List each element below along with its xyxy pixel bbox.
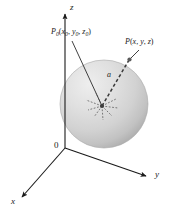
center-point-paren-close: ) <box>88 27 91 36</box>
sphere-coordinate-figure: z y x 0 P0(x0, y0, z0) P(x, y, z) a <box>0 0 176 213</box>
radius-label: a <box>107 71 111 79</box>
center-point-label: P0(x0, y0, z0) <box>51 28 91 37</box>
surface-point-leader-line <box>130 50 139 59</box>
surface-point-label: P(x, y, z) <box>125 38 153 46</box>
y-axis <box>65 148 146 176</box>
center-point-marker <box>100 104 104 108</box>
y-axis-label: y <box>155 170 159 179</box>
origin-label: 0 <box>54 141 59 150</box>
surface-point-paren-close: ) <box>151 37 154 46</box>
surface-point-marker <box>127 57 131 61</box>
z-axis-label: z <box>70 3 74 12</box>
x-axis-label: x <box>11 197 15 206</box>
x-axis <box>22 148 65 197</box>
